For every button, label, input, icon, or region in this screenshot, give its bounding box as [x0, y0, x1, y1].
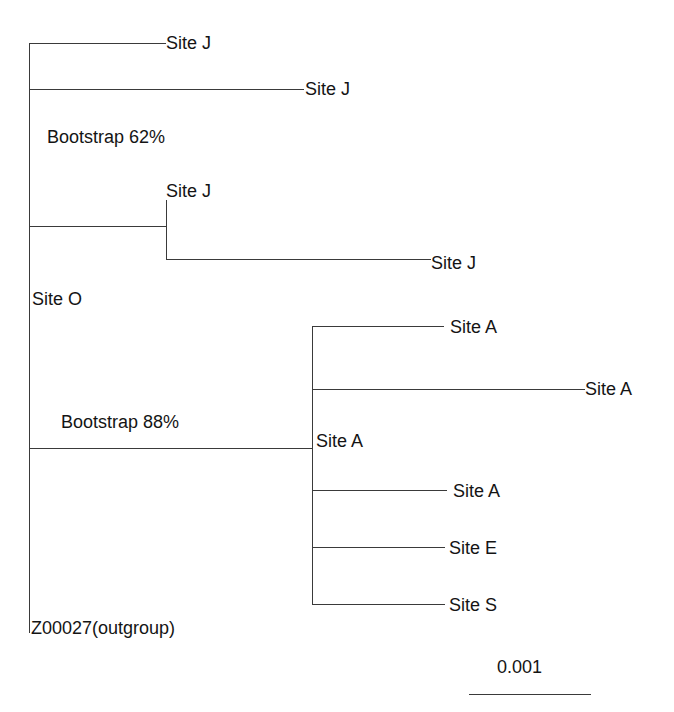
leaf-label: Site S	[449, 595, 497, 615]
node-vertical-line	[312, 326, 313, 605]
leaf-label: Site J	[431, 253, 476, 273]
leaf-label: Site E	[449, 538, 497, 558]
leaf-label: Site A	[585, 379, 632, 399]
leaf-label: Site J	[305, 79, 350, 99]
branch-line	[29, 43, 166, 44]
branch-line	[29, 89, 304, 90]
bootstrap-label: Bootstrap 88%	[61, 412, 179, 432]
branch-line	[312, 326, 444, 327]
scale-bar-line	[469, 694, 591, 695]
root-vertical-line	[29, 43, 30, 633]
leaf-label: Site J	[166, 33, 211, 53]
bootstrap-label: Bootstrap 62%	[47, 127, 165, 147]
branch-line	[312, 547, 445, 548]
branch-line	[312, 389, 585, 390]
scale-bar-label: 0.001	[497, 657, 542, 677]
leaf-label: Site J	[166, 181, 211, 201]
node-vertical-line	[166, 200, 167, 260]
branch-line	[312, 604, 445, 605]
leaf-label: Site A	[450, 317, 497, 337]
node-label: Site A	[316, 431, 363, 451]
branch-line	[29, 226, 166, 227]
leaf-label: Site A	[453, 481, 500, 501]
branch-line	[312, 490, 447, 491]
outgroup-label: Z00027(outgroup)	[31, 618, 175, 638]
branch-line	[166, 259, 431, 260]
node-label: Site O	[32, 289, 82, 309]
branch-line	[29, 448, 312, 449]
